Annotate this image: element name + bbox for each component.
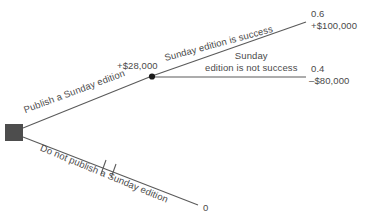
payoff-not-success-label: –$80,000 [309,75,349,86]
payoff-success-label: +$100,000 [311,20,357,31]
branch-label-not-success-line2: edition is not success [205,62,298,74]
decision-node [5,124,23,141]
probability-not-success-label: 0.4 [311,63,325,74]
tree-edges-and-nodes [0,0,367,219]
payoff-do-not-publish-label: 0 [203,202,208,213]
probability-success-label: 0.6 [311,8,325,19]
branch-label-not-success-line1: Sunday [205,50,298,62]
expected-value-label: +$28,000 [117,60,158,71]
chance-node [149,73,155,79]
decision-tree-diagram: Publish a Sunday edition Sunday edition … [0,0,367,219]
branch-label-not-success: Sunday edition is not success [205,50,298,73]
